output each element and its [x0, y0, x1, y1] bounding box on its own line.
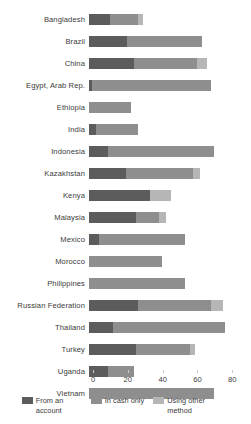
bar-segment	[89, 212, 136, 223]
bar-segment	[127, 36, 202, 47]
category-label: Kazakhstan	[0, 169, 89, 178]
x-axis-tick	[163, 370, 164, 373]
stacked-bar	[89, 322, 251, 333]
stacked-bar	[89, 278, 251, 289]
bar-segment	[92, 80, 210, 91]
bar-segment	[126, 168, 194, 179]
legend-item[interactable]: Using other method	[153, 396, 229, 415]
stacked-bar-chart: BangladeshBrazilChinaEgypt, Arab Rep.Eth…	[0, 0, 251, 424]
chart-row: Malaysia	[0, 206, 251, 228]
x-axis-tick-label: 40	[158, 375, 166, 384]
chart-row: Brazil	[0, 30, 251, 52]
chart-row: Ethiopia	[0, 96, 251, 118]
stacked-bar	[89, 102, 251, 113]
bar-segment	[89, 168, 126, 179]
bar-segment	[89, 146, 108, 157]
category-label: Uganda	[0, 367, 89, 376]
chart-row: Egypt, Arab Rep.	[0, 74, 251, 96]
category-label: Philippines	[0, 279, 89, 288]
legend-label: In cash only	[105, 396, 144, 406]
chart-legend: From an accountIn cash onlyUsing other m…	[0, 396, 251, 415]
bar-segment	[136, 212, 159, 223]
stacked-bar	[89, 36, 251, 47]
bar-segment	[138, 300, 211, 311]
stacked-bar	[89, 190, 251, 201]
bar-segment	[89, 322, 113, 333]
category-label: Mexico	[0, 235, 89, 244]
x-axis-tick	[197, 370, 198, 373]
category-label: India	[0, 125, 89, 134]
chart-row: Mexico	[0, 228, 251, 250]
category-label: Brazil	[0, 37, 89, 46]
stacked-bar	[89, 80, 251, 91]
stacked-bar	[89, 168, 251, 179]
x-axis: 020406080	[93, 370, 241, 392]
bar-segment	[190, 344, 195, 355]
bar-segment	[211, 300, 223, 311]
category-label: Thailand	[0, 323, 89, 332]
chart-row: Thailand	[0, 316, 251, 338]
x-axis-tick-label: 0	[91, 375, 95, 384]
bar-segment	[197, 58, 207, 69]
chart-row: Bangladesh	[0, 8, 251, 30]
category-label: Bangladesh	[0, 15, 89, 24]
stacked-bar	[89, 124, 251, 135]
legend-swatch-icon	[22, 397, 33, 404]
bar-segment	[89, 256, 162, 267]
category-label: Ethiopia	[0, 103, 89, 112]
stacked-bar	[89, 146, 251, 157]
chart-row: Kazakhstan	[0, 162, 251, 184]
category-label: Morocco	[0, 257, 89, 266]
bar-segment	[99, 234, 184, 245]
stacked-bar	[89, 344, 251, 355]
bar-segment	[113, 322, 224, 333]
x-axis-tick	[93, 370, 94, 373]
chart-row: Philippines	[0, 272, 251, 294]
bar-segment	[89, 124, 96, 135]
x-axis-tick	[128, 370, 129, 373]
x-axis-tick-label: 20	[124, 375, 132, 384]
chart-row: Turkey	[0, 338, 251, 360]
bar-segment	[89, 234, 99, 245]
chart-row: Morocco	[0, 250, 251, 272]
stacked-bar	[89, 14, 251, 25]
stacked-bar	[89, 300, 251, 311]
bar-segment	[89, 36, 127, 47]
stacked-bar	[89, 212, 251, 223]
x-axis-tick-label: 80	[228, 375, 236, 384]
chart-row: India	[0, 118, 251, 140]
category-label: Malaysia	[0, 213, 89, 222]
bar-segment	[89, 58, 134, 69]
stacked-bar	[89, 58, 251, 69]
bar-segment	[89, 344, 136, 355]
category-label: China	[0, 59, 89, 68]
x-axis-tick	[232, 370, 233, 373]
bar-segment	[134, 58, 197, 69]
legend-item[interactable]: From an account	[22, 396, 82, 415]
chart-row: Kenya	[0, 184, 251, 206]
bar-segment	[89, 190, 150, 201]
chart-row: Russian Federation	[0, 294, 251, 316]
legend-swatch-icon	[153, 397, 164, 404]
bar-segment	[96, 124, 138, 135]
chart-row: China	[0, 52, 251, 74]
category-label: Russian Federation	[0, 301, 89, 310]
legend-swatch-icon	[91, 397, 102, 404]
legend-label: Using other method	[167, 396, 229, 415]
category-label: Kenya	[0, 191, 89, 200]
bar-segment	[108, 146, 214, 157]
legend-label: From an account	[36, 396, 82, 415]
stacked-bar	[89, 234, 251, 245]
bar-segment	[89, 300, 138, 311]
plot-area: BangladeshBrazilChinaEgypt, Arab Rep.Eth…	[0, 8, 251, 370]
bar-segment	[110, 14, 138, 25]
bar-segment	[138, 14, 143, 25]
category-label: Egypt, Arab Rep.	[0, 81, 89, 90]
stacked-bar	[89, 256, 251, 267]
chart-row: Indonesia	[0, 140, 251, 162]
bar-segment	[89, 102, 131, 113]
legend-item[interactable]: In cash only	[91, 396, 144, 406]
category-label: Indonesia	[0, 147, 89, 156]
x-axis-tick-label: 60	[193, 375, 201, 384]
bar-segment	[89, 278, 185, 289]
